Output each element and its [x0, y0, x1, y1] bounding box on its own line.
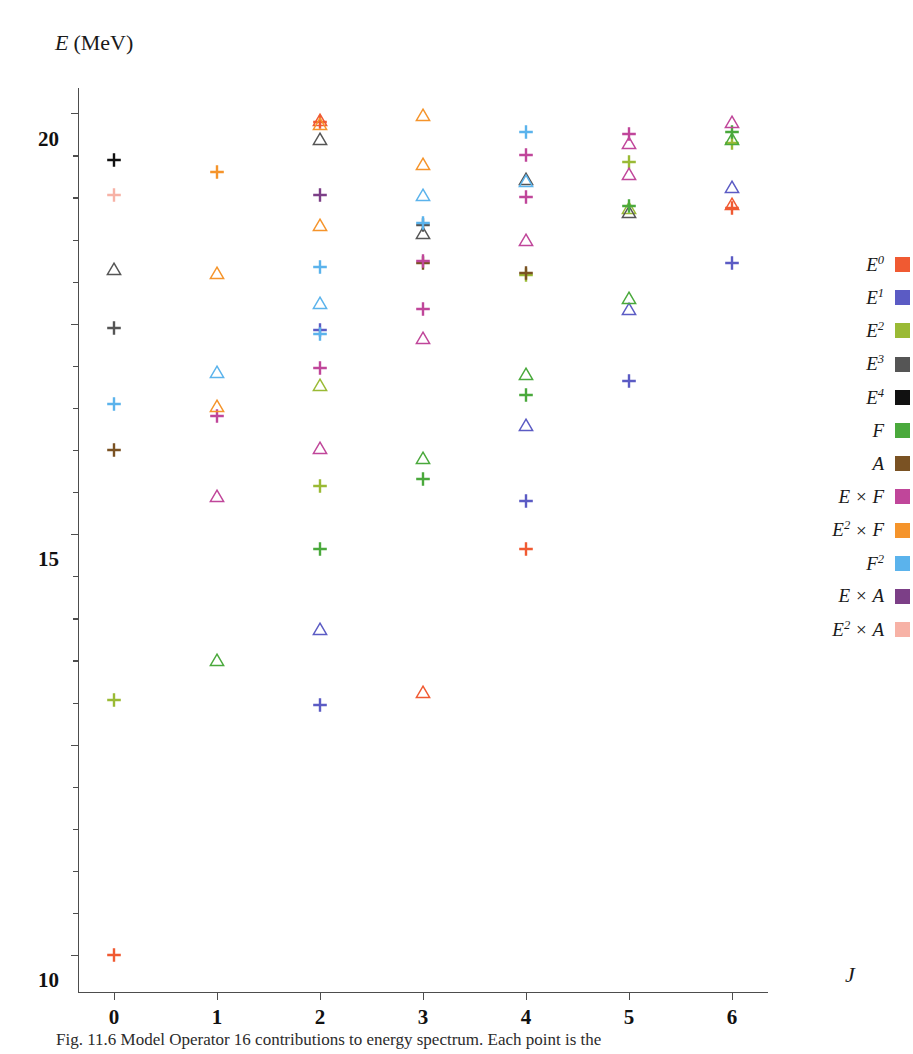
data-point-F-cross	[311, 540, 329, 558]
data-point-F-cross	[620, 197, 638, 215]
y-tick-minor	[73, 871, 78, 872]
data-point-ExF-triangle	[620, 165, 638, 183]
y-axis-line	[78, 88, 79, 993]
legend-label: E2 × A	[832, 618, 884, 641]
y-tick-minor	[73, 618, 78, 619]
legend-item-E0[interactable]: E0	[760, 248, 910, 281]
data-point-E1-cross	[517, 492, 535, 510]
data-point-E1-cross	[311, 321, 329, 339]
data-point-ExF-triangle	[723, 113, 741, 131]
legend-item-E2[interactable]: E2	[760, 314, 910, 347]
y-tick-minor	[73, 492, 78, 493]
legend-swatch	[895, 290, 910, 305]
data-point-E0-cross	[105, 946, 123, 964]
legend-item-E2xA[interactable]: E2 × A	[760, 613, 910, 646]
data-point-F-cross	[414, 470, 432, 488]
legend-item-E2xF[interactable]: E2 × F	[760, 514, 910, 547]
legend-swatch	[895, 357, 910, 372]
legend-item-E3[interactable]: E3	[760, 348, 910, 381]
data-point-E2-cross	[723, 134, 741, 152]
data-point-F-cross	[517, 386, 535, 404]
legend-item-A[interactable]: A	[760, 447, 910, 480]
y-tick-major: 0	[71, 955, 78, 956]
data-point-F2-cross	[311, 258, 329, 276]
legend-label: E × F	[839, 486, 884, 508]
figure-container: E(MeV) J 05101520 0123456 E0E1E2E3E4FAE …	[0, 0, 913, 1054]
legend-item-E4[interactable]: E4	[760, 381, 910, 414]
data-point-E1-cross	[311, 696, 329, 714]
data-point-E2-cross	[517, 266, 535, 284]
data-point-ExF-triangle	[517, 231, 535, 249]
data-point-E2xF-cross	[208, 163, 226, 181]
y-tick-major: 20	[71, 113, 78, 114]
y-axis-label: E(MeV)	[55, 30, 133, 56]
data-point-E3-triangle	[311, 130, 329, 148]
data-point-ExF-cross	[208, 407, 226, 425]
data-point-A-cross	[105, 441, 123, 459]
legend-item-ExA[interactable]: E × A	[760, 580, 910, 613]
y-tick-minor	[73, 450, 78, 451]
data-point-ExF-triangle	[208, 487, 226, 505]
legend-label: A	[872, 453, 884, 475]
data-point-E2-cross	[311, 477, 329, 495]
y-tick-minor	[73, 829, 78, 830]
data-point-F-cross	[723, 123, 741, 141]
data-point-E2xF-triangle	[414, 155, 432, 173]
legend-swatch	[895, 323, 910, 338]
data-point-F2-cross	[311, 325, 329, 343]
legend-label: E4	[866, 386, 884, 409]
data-point-F2-triangle	[517, 172, 535, 190]
x-tick-label: 4	[521, 1005, 532, 1030]
data-point-F-triangle	[208, 651, 226, 669]
data-point-ExF-cross	[517, 188, 535, 206]
legend-item-F2[interactable]: F2	[760, 547, 910, 580]
x-tick-label: 1	[212, 1005, 223, 1030]
legend-label: E2 × F	[832, 518, 884, 541]
data-point-E2xF-triangle	[208, 397, 226, 415]
data-point-F2-triangle	[311, 294, 329, 312]
data-point-ExF-cross	[311, 359, 329, 377]
data-point-E3-cross	[414, 216, 432, 234]
x-tick-label: 6	[727, 1005, 738, 1030]
data-point-F-triangle	[414, 449, 432, 467]
data-point-F2-cross	[105, 395, 123, 413]
y-tick-minor	[73, 155, 78, 156]
legend: E0E1E2E3E4FAE × FE2 × FF2E × AE2 × A	[760, 248, 910, 646]
y-axis-label-symbol: E	[55, 30, 68, 55]
data-point-A-cross	[414, 254, 432, 272]
y-tick-minor	[73, 282, 78, 283]
data-point-ExF-triangle	[414, 329, 432, 347]
data-point-F-triangle	[620, 289, 638, 307]
data-point-E0-triangle	[414, 683, 432, 701]
data-point-E4-cross	[105, 151, 123, 169]
data-point-E3-triangle	[517, 170, 535, 188]
data-point-E1-cross	[723, 254, 741, 272]
data-point-ExF-triangle	[620, 134, 638, 152]
data-point-ExF-cross	[517, 146, 535, 164]
data-point-E2-cross	[620, 153, 638, 171]
x-tick-label: 3	[418, 1005, 429, 1030]
legend-label: E3	[866, 352, 884, 375]
data-point-E1-triangle	[517, 416, 535, 434]
data-point-E0-cross	[311, 113, 329, 131]
x-tick-major	[526, 993, 527, 1000]
legend-item-F[interactable]: F	[760, 414, 910, 447]
x-tick-major	[114, 993, 115, 1000]
y-tick-label: 10	[38, 968, 59, 993]
x-tick-label: 5	[624, 1005, 635, 1030]
legend-item-ExF[interactable]: E × F	[760, 480, 910, 513]
data-point-F2-cross	[414, 214, 432, 232]
x-tick-major	[423, 993, 424, 1000]
legend-swatch	[895, 423, 910, 438]
legend-swatch	[895, 556, 910, 571]
legend-item-E1[interactable]: E1	[760, 281, 910, 314]
y-tick-minor	[73, 913, 78, 914]
y-tick-minor	[73, 787, 78, 788]
legend-label: F2	[866, 552, 884, 575]
legend-swatch	[895, 589, 910, 604]
data-point-E2xF-triangle	[311, 115, 329, 133]
legend-label: F	[872, 420, 884, 442]
y-tick-major: 15	[71, 324, 78, 325]
data-point-E2-triangle	[620, 199, 638, 217]
legend-swatch	[895, 456, 910, 471]
